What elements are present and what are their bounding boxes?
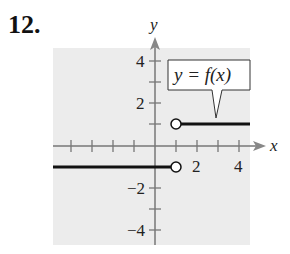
open-circle-icon <box>171 119 181 129</box>
y-tick-label-2: 2 <box>136 94 145 113</box>
y-tick-label-neg2: −2 <box>127 179 145 198</box>
y-tick-label-neg4: −4 <box>127 221 146 240</box>
callout-text: y = f(x) <box>172 64 231 86</box>
y-tick-label-4: 4 <box>136 52 145 71</box>
open-circle-icon <box>171 162 181 172</box>
x-tick-label-2: 2 <box>192 157 201 176</box>
y-axis-label: y <box>148 15 158 34</box>
x-tick-label-4: 4 <box>234 157 243 176</box>
x-axis-label: x <box>269 136 278 155</box>
step-function-graph: x y 2 4 4 2 −2 −4 y = f(x) <box>0 0 290 254</box>
